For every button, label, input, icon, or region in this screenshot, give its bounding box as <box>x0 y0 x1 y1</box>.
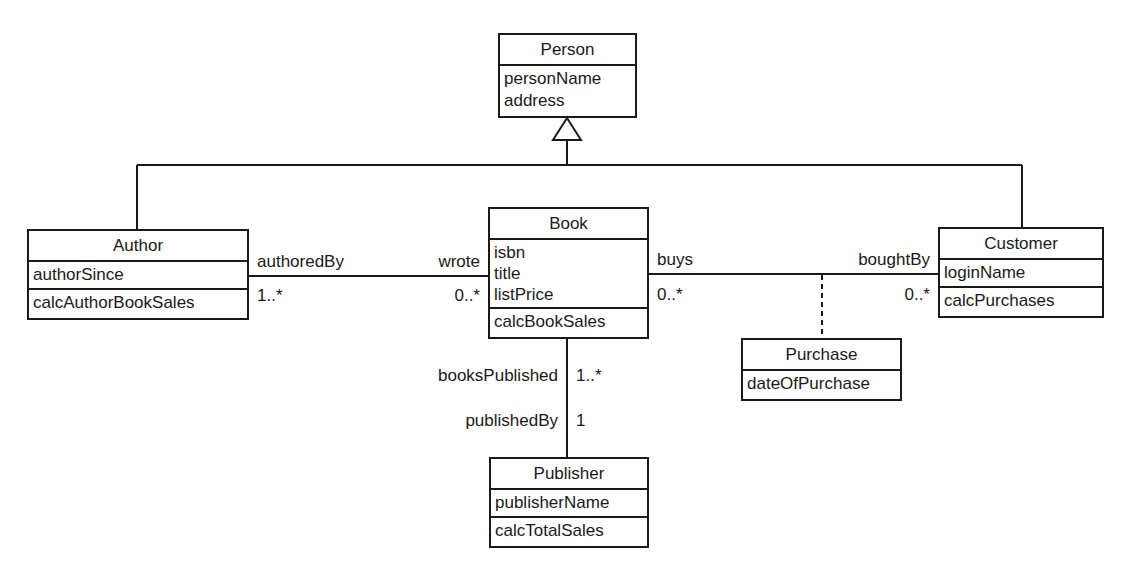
multiplicity-publisher: 1 <box>576 411 585 431</box>
operation: calcBookSales <box>494 311 643 333</box>
class-customer[interactable]: Customer loginName calcPurchases <box>938 227 1104 318</box>
role-wrote: wrote <box>400 252 480 272</box>
multiplicity-book-author: 0..* <box>400 286 480 306</box>
role-booksPublished: booksPublished <box>400 366 558 386</box>
attribute: listPrice <box>494 284 643 305</box>
operations: calcBookSales <box>490 307 647 335</box>
attributes: dateOfPurchase <box>743 371 900 397</box>
class-name: Purchase <box>743 340 900 371</box>
operation: calcAuthorBookSales <box>33 292 243 314</box>
role-buys: buys <box>657 250 693 270</box>
class-name: Customer <box>940 229 1102 260</box>
multiplicity-books-published: 1..* <box>576 366 602 386</box>
class-purchase[interactable]: Purchase dateOfPurchase <box>741 338 902 401</box>
attributes: publisherName <box>491 490 647 516</box>
operation: calcPurchases <box>944 290 1098 312</box>
role-publishedBy: publishedBy <box>400 411 558 431</box>
class-name: Publisher <box>491 459 647 490</box>
attributes: personName address <box>500 66 635 114</box>
attribute: dateOfPurchase <box>747 373 896 395</box>
attribute: loginName <box>944 262 1098 284</box>
attribute: address <box>504 90 631 112</box>
class-book[interactable]: Book isbn title listPrice calcBookSales <box>488 207 649 339</box>
attribute: isbn <box>494 242 643 263</box>
class-name: Author <box>29 231 247 262</box>
attributes: authorSince <box>29 262 247 288</box>
attribute: publisherName <box>495 492 643 514</box>
class-publisher[interactable]: Publisher publisherName calcTotalSales <box>489 457 649 548</box>
multiplicity-author: 1..* <box>257 286 283 306</box>
class-name: Person <box>500 35 635 66</box>
attributes: loginName <box>940 260 1102 286</box>
multiplicity-book-customer: 0..* <box>657 285 683 305</box>
multiplicity-customer: 0..* <box>820 285 930 305</box>
attribute: personName <box>504 68 631 90</box>
operations: calcAuthorBookSales <box>29 288 247 316</box>
attribute: title <box>494 263 643 284</box>
class-name: Book <box>490 209 647 240</box>
operations: calcTotalSales <box>491 516 647 544</box>
operations: calcPurchases <box>940 286 1102 314</box>
operation: calcTotalSales <box>495 520 643 542</box>
role-boughtBy: boughtBy <box>820 250 930 270</box>
attributes: isbn title listPrice <box>490 240 647 307</box>
generalization-arrow-icon <box>553 118 581 140</box>
role-authoredBy: authoredBy <box>257 252 344 272</box>
attribute: authorSince <box>33 264 243 286</box>
class-author[interactable]: Author authorSince calcAuthorBookSales <box>27 229 249 320</box>
class-person[interactable]: Person personName address <box>498 33 637 118</box>
